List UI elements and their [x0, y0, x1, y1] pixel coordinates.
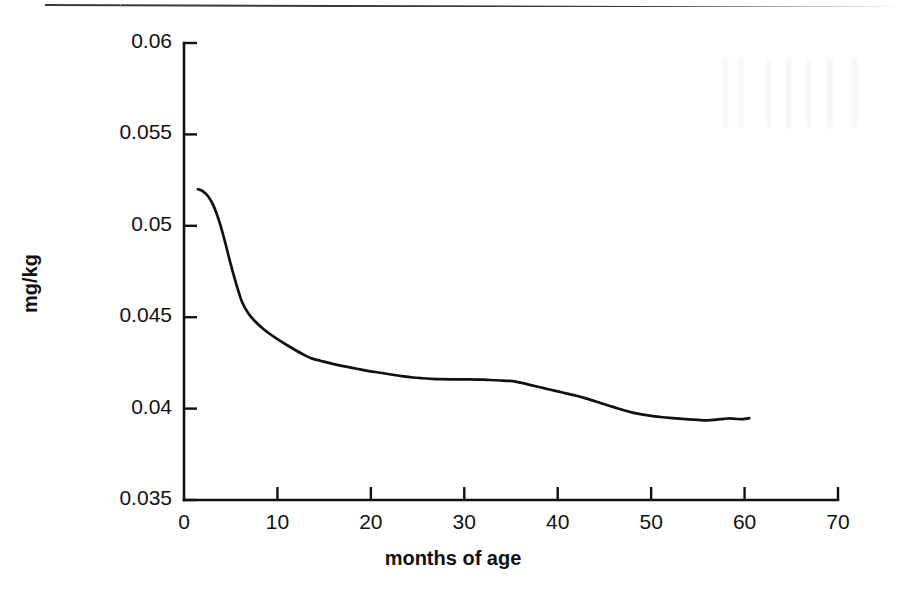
y-axis-tick-label: 0.04: [131, 395, 172, 419]
axes: [184, 43, 838, 500]
y-axis-tick-label: 0.05: [131, 212, 172, 236]
x-axis-tick-label: 50: [611, 510, 691, 534]
y-axis-tick-label: 0.06: [131, 29, 172, 53]
y-axis-tick-label: 0.045: [119, 303, 172, 327]
x-axis-tick-label: 70: [798, 510, 878, 534]
x-axis-tick-label: 60: [705, 510, 785, 534]
x-axis-tick-label: 0: [144, 510, 224, 534]
x-axis-tick-label: 30: [424, 510, 504, 534]
x-axis-tick-label: 10: [237, 510, 317, 534]
data-series-group: [198, 189, 749, 420]
x-axis-tick-label: 20: [331, 510, 411, 534]
line-chart: 0.0350.040.0450.050.0550.06 010203040506…: [0, 0, 906, 614]
y-axis-ticks: [184, 43, 197, 500]
y-axis-tick-label: 0.055: [119, 120, 172, 144]
y-axis-tick-label: 0.035: [119, 486, 172, 510]
data-line-mgkg: [198, 189, 749, 420]
x-axis-title: months of age: [0, 547, 906, 570]
x-axis-ticks: [277, 487, 838, 500]
y-axis-title: mg/kg: [19, 224, 42, 344]
x-axis-tick-label: 40: [518, 510, 598, 534]
scanned-page: 0.0350.040.0450.050.0550.06 010203040506…: [0, 0, 906, 614]
